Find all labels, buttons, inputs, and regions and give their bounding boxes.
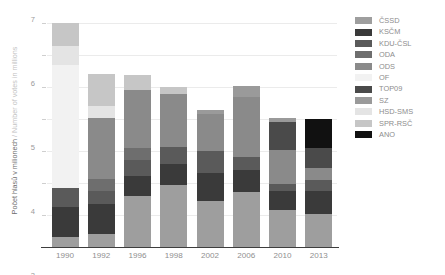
legend-item-KDUSL[interactable]: KDU-ČSL (355, 38, 443, 49)
bar-segment-KDUSL[interactable] (88, 191, 115, 204)
legend-label: ANO (379, 131, 395, 138)
legend-swatch-icon (355, 63, 372, 70)
legend-item-SPRRS[interactable]: SPR-RSČ (355, 118, 443, 129)
legend-swatch-icon (355, 97, 372, 104)
bar-segment-SSD[interactable] (160, 185, 187, 247)
legend-item-SZ[interactable]: SZ (355, 95, 443, 106)
legend-item-SSD[interactable]: ČSSD (355, 15, 443, 26)
bar-segment-KDUSL[interactable] (269, 184, 296, 191)
bar-1990[interactable] (52, 23, 79, 247)
x-tick-label-1992: 1992 (83, 251, 119, 260)
y-axis-title-en: Number of votes in millions (10, 47, 19, 133)
bar-segment-HSDSMS[interactable] (52, 46, 79, 64)
bar-segment-SPRRS[interactable] (124, 75, 151, 91)
bar-segment-KDUSL[interactable] (52, 188, 79, 207)
bar-2013[interactable] (305, 119, 332, 247)
bar-segment-ODA[interactable] (88, 179, 115, 191)
bar-segment-TOP09[interactable] (305, 148, 332, 167)
y-axis-title: Počet hlasů v milionech / Number of vote… (0, 0, 22, 275)
legend-swatch-icon (355, 131, 372, 138)
legend-item-OF[interactable]: OF (355, 72, 443, 83)
legend-item-HSDSMS[interactable]: HSD-SMS (355, 106, 443, 117)
legend-swatch-icon (355, 29, 372, 36)
bar-segment-ODA[interactable] (124, 148, 151, 160)
bar-segment-KSM[interactable] (305, 191, 332, 215)
legend-item-TOP09[interactable]: TOP09 (355, 83, 443, 94)
legend-item-ANO[interactable]: ANO (355, 129, 443, 140)
bar-segment-HSDSMS[interactable] (88, 106, 115, 118)
bar-segment-ODS[interactable] (88, 118, 115, 179)
legend-label: HSD-SMS (379, 108, 413, 115)
legend-item-ODS[interactable]: ODS (355, 61, 443, 72)
bar-2002[interactable] (197, 110, 224, 247)
bar-1996[interactable] (124, 75, 151, 247)
bar-segment-OF[interactable] (52, 65, 79, 188)
bar-segment-ODS[interactable] (269, 150, 296, 184)
legend-item-ODA[interactable]: ODA (355, 49, 443, 60)
bar-segment-SPRRS[interactable] (52, 23, 79, 46)
legend-swatch-icon (355, 17, 372, 24)
bar-segment-ODS[interactable] (233, 97, 260, 157)
bar-segment-KSM[interactable] (52, 207, 79, 237)
bar-segment-SSD[interactable] (124, 196, 151, 247)
bar-segment-SSD[interactable] (88, 234, 115, 247)
bar-2010[interactable] (269, 118, 296, 247)
bar-segment-SSD[interactable] (269, 210, 296, 247)
y-tick-mark: 5 (42, 87, 46, 88)
bar-1998[interactable] (160, 87, 187, 247)
legend: ČSSDKSČMKDU-ČSLODAODSOFTOP09SZHSD-SMSSPR… (355, 15, 443, 140)
gridline (47, 55, 337, 56)
legend-label: KDU-ČSL (379, 40, 411, 47)
bar-segment-SPRRS[interactable] (160, 87, 187, 94)
bar-segment-ODS[interactable] (197, 114, 224, 151)
bar-segment-KDUSL[interactable] (160, 147, 187, 164)
legend-swatch-icon (355, 120, 372, 127)
legend-swatch-icon (355, 74, 372, 81)
bar-segment-KDUSL[interactable] (197, 151, 224, 173)
bar-segment-ODS[interactable] (160, 94, 187, 147)
bar-segment-SSD[interactable] (197, 201, 224, 247)
bar-segment-KDUSL[interactable] (305, 180, 332, 191)
bar-segment-SSD[interactable] (52, 237, 79, 247)
bar-segment-KDUSL[interactable] (124, 160, 151, 176)
legend-label: KSČM (379, 28, 400, 35)
x-tick-label-2010: 2010 (265, 251, 301, 260)
y-tick-mark: 3 (42, 151, 46, 152)
bar-segment-ODS[interactable] (124, 90, 151, 147)
y-tick-label: 6 (31, 83, 35, 84)
bar-segment-SSD[interactable] (305, 214, 332, 247)
bar-segment-TOP09[interactable] (269, 122, 296, 150)
legend-label: TOP09 (379, 85, 402, 92)
legend-label: ODS (379, 63, 395, 70)
bar-segment-KSM[interactable] (88, 204, 115, 233)
bar-segment-SPRRS[interactable] (88, 74, 115, 106)
legend-label: SPR-RSČ (379, 120, 412, 127)
bar-segment-SSD[interactable] (233, 192, 260, 247)
bar-segment-SZ[interactable] (233, 86, 260, 97)
bar-segment-KSM[interactable] (124, 176, 151, 196)
bar-1992[interactable] (88, 74, 115, 247)
x-tick-label-2013: 2013 (301, 251, 337, 260)
bar-segment-ANO[interactable] (305, 119, 332, 149)
bar-segment-KDUSL[interactable] (233, 157, 260, 169)
bar-segment-KSM[interactable] (269, 191, 296, 210)
legend-label: OF (379, 74, 389, 81)
x-tick-label-2006: 2006 (228, 251, 264, 260)
x-tick-label-2002: 2002 (192, 251, 228, 260)
bar-segment-ODS[interactable] (305, 168, 332, 180)
y-tick-label: 4 (31, 211, 35, 212)
legend-swatch-icon (355, 108, 372, 115)
legend-label: SZ (379, 97, 388, 104)
bar-segment-KSM[interactable] (160, 164, 187, 185)
legend-swatch-icon (355, 51, 372, 58)
bar-segment-KSM[interactable] (233, 170, 260, 192)
legend-item-KSM[interactable]: KSČM (355, 26, 443, 37)
legend-label: ČSSD (379, 17, 400, 24)
y-axis-title-cz: Počet hlasů v milionech (10, 139, 19, 215)
plot-area: 01234567 1990199219961998200220062010201… (47, 23, 337, 247)
y-tick-mark: 6 (42, 55, 46, 56)
x-axis-line (41, 247, 339, 248)
bar-segment-KSM[interactable] (197, 173, 224, 201)
y-axis-title-separator: / (10, 133, 19, 139)
bar-2006[interactable] (233, 86, 260, 247)
